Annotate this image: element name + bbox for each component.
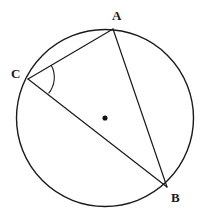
chord-a-b: [113, 29, 167, 187]
point-label-a: A: [112, 9, 121, 22]
chord-c-b: [28, 79, 167, 187]
inscribed-angle-arc-at-C: [49, 65, 55, 93]
point-label-b: B: [171, 191, 180, 204]
point-label-c: C: [11, 67, 20, 80]
circle-center-dot: [102, 115, 107, 120]
geometry-diagram: A C B: [0, 0, 206, 222]
geometry-canvas: [0, 0, 206, 222]
